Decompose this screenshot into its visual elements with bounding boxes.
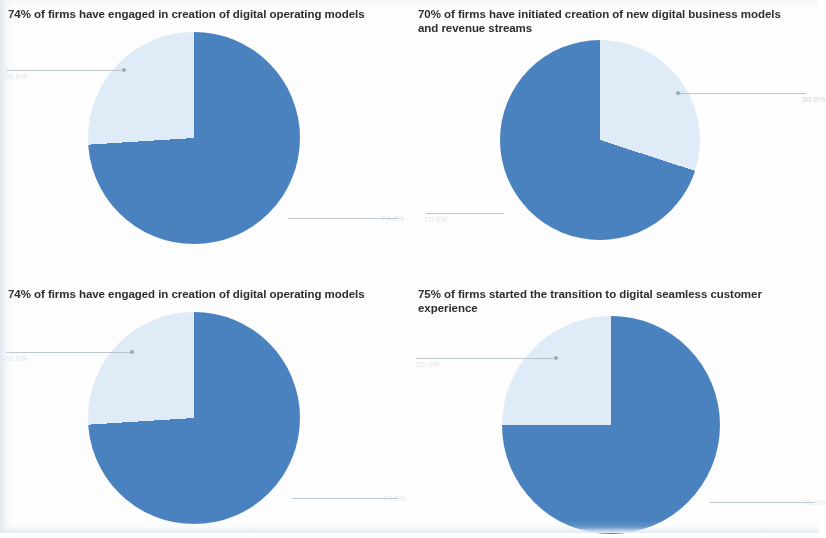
- leader-line-secondary: [6, 70, 124, 71]
- pie-label-secondary: 26.0%: [4, 72, 28, 81]
- pie-chart: [500, 40, 700, 240]
- pie-label-secondary: 30.0%: [802, 95, 826, 104]
- chart-panel-digital-operating-models-top: 74% of firms have engaged in creation of…: [0, 0, 409, 266]
- pie-label-secondary: 25.0%: [416, 360, 440, 369]
- chart-panel-digital-operating-models-bottom: 74% of firms have engaged in creation of…: [0, 280, 409, 538]
- leader-line-primary: [710, 502, 815, 503]
- pie-label-secondary: 26.0%: [4, 354, 28, 363]
- leader-line-secondary: [678, 93, 806, 94]
- leader-line-primary: [426, 213, 504, 214]
- pie-label-primary: 70.0%: [424, 215, 448, 224]
- pie-label-primary: 75.0%: [802, 498, 826, 507]
- chart-title: 74% of firms have engaged in creation of…: [8, 288, 394, 302]
- chart-title: 75% of firms started the transition to d…: [418, 288, 790, 315]
- chart-title: 74% of firms have engaged in creation of…: [8, 8, 394, 22]
- chart-title: 70% of firms have initiated creation of …: [418, 8, 790, 35]
- pie-slices: [500, 40, 700, 240]
- pie-chart: [88, 312, 300, 524]
- leader-endpoint-secondary: [130, 350, 134, 354]
- chart-panel-digital-business-models: 70% of firms have initiated creation of …: [410, 0, 819, 266]
- pie-slices: [88, 312, 300, 524]
- pie-slices: [88, 32, 300, 244]
- chart-panel-seamless-customer-experience: 75% of firms started the transition to d…: [410, 280, 819, 538]
- pie-chart: [502, 316, 720, 534]
- pie-slices: [502, 316, 720, 534]
- pie-chart: [88, 32, 300, 244]
- pie-label-primary: 74.0%: [383, 494, 407, 503]
- leader-endpoint-secondary: [554, 356, 558, 360]
- leader-endpoint-secondary: [676, 91, 680, 95]
- leader-line-secondary: [416, 358, 556, 359]
- pie-label-primary: 74.0%: [381, 214, 405, 223]
- leader-line-secondary: [6, 352, 132, 353]
- leader-endpoint-secondary: [122, 68, 126, 72]
